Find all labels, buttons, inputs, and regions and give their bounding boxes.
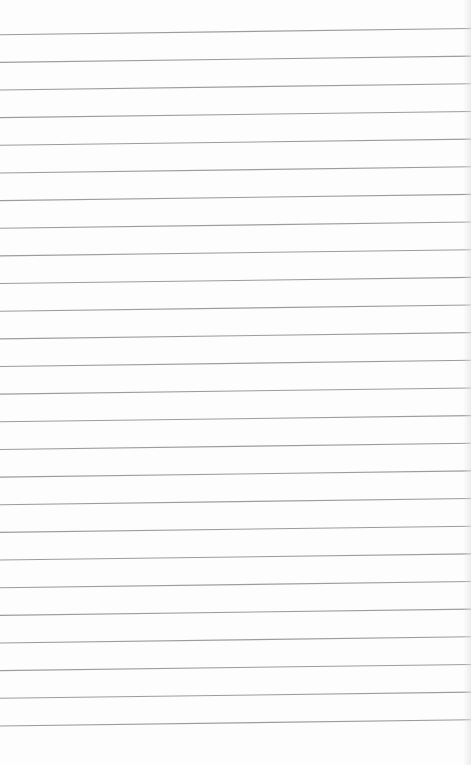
ruled-line: [0, 471, 471, 477]
ruled-line: [0, 526, 471, 532]
ruled-line: [0, 637, 471, 643]
ruled-line: [0, 360, 471, 366]
ruled-lines: [0, 0, 471, 765]
ruled-line: [0, 139, 471, 145]
ruled-line: [0, 416, 471, 422]
ruled-line: [0, 167, 471, 173]
ruled-line: [0, 222, 471, 228]
ruled-line: [0, 554, 471, 560]
ruled-line: [0, 194, 471, 200]
ruled-line: [0, 84, 471, 90]
ruled-line: [0, 499, 471, 505]
ruled-line: [0, 305, 471, 311]
lined-paper: [0, 0, 471, 765]
ruled-line: [0, 111, 471, 117]
ruled-line: [0, 443, 471, 449]
ruled-line: [0, 720, 471, 726]
ruled-line: [0, 250, 471, 256]
ruled-line: [0, 582, 471, 588]
ruled-line: [0, 56, 471, 62]
ruled-line: [0, 333, 471, 339]
ruled-line: [0, 388, 471, 394]
ruled-line: [0, 277, 471, 283]
ruled-line: [0, 609, 471, 615]
ruled-line: [0, 664, 471, 670]
ruled-line: [0, 692, 471, 698]
paper-edge-shadow: [463, 0, 471, 765]
ruled-line: [0, 29, 471, 35]
